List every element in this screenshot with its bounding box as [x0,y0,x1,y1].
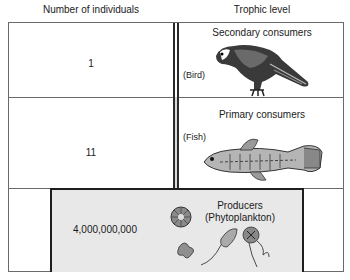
level-primary-consumers: Primary consumers [180,109,344,120]
count-primary-consumers: 11 [8,147,174,158]
column-divider-middle [173,97,179,189]
header-number-of-individuals: Number of individuals [8,4,174,15]
header-trophic-level: Trophic level [180,4,344,15]
organism-bird: (Bird) [183,70,205,80]
count-secondary-consumers: 1 [8,58,174,69]
level-secondary-consumers: Secondary consumers [180,27,344,38]
bird-icon [210,38,315,100]
fish-icon [200,132,325,187]
count-producers: 4,000,000,000 [50,224,160,235]
phytoplankton-icon [165,205,280,275]
